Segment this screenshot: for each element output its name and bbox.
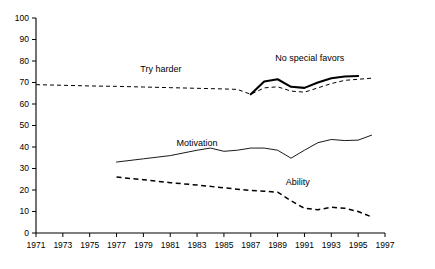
series-label-motivation: Motivation bbox=[177, 138, 218, 148]
x-axis-tick-label: 1979 bbox=[134, 240, 153, 250]
x-axis-tick-label: 1985 bbox=[214, 240, 233, 250]
y-axis-tick-label: 30 bbox=[20, 163, 30, 173]
chart-axes bbox=[36, 18, 385, 233]
y-axis-tick-label: 10 bbox=[20, 206, 30, 216]
y-axis-tick-label: 20 bbox=[20, 185, 30, 195]
x-axis-tick-label: 1987 bbox=[241, 240, 260, 250]
x-axis-tick-label: 1993 bbox=[322, 240, 341, 250]
y-axis-tick-label: 70 bbox=[20, 77, 30, 87]
series-line-motivation bbox=[117, 135, 372, 162]
x-axis-tick-label: 1973 bbox=[53, 240, 72, 250]
series-label-ability: Ability bbox=[286, 177, 311, 187]
y-axis-tick-label: 40 bbox=[20, 142, 30, 152]
x-axis-tick-label: 1997 bbox=[376, 240, 395, 250]
y-axis-tick-label: 60 bbox=[20, 99, 30, 109]
y-axis-tick-label: 80 bbox=[20, 56, 30, 66]
x-axis-tick-label: 1991 bbox=[295, 240, 314, 250]
series-label-try-harder: Try harder bbox=[140, 64, 181, 74]
x-axis-tick-label: 1975 bbox=[80, 240, 99, 250]
series-line-ability bbox=[117, 177, 372, 217]
y-axis-tick-label: 100 bbox=[15, 13, 29, 23]
x-axis-tick-label: 1989 bbox=[268, 240, 287, 250]
x-axis-tick-label: 1983 bbox=[188, 240, 207, 250]
x-axis-tick-label: 1981 bbox=[161, 240, 180, 250]
x-axis-tick-label: 1971 bbox=[27, 240, 46, 250]
y-axis-tick-label: 0 bbox=[24, 228, 29, 238]
x-axis-tick-label: 1995 bbox=[349, 240, 368, 250]
series-label-no-special-favors: No special favors bbox=[275, 53, 345, 63]
chart-container: 0102030405060708090100197119731975197719… bbox=[0, 0, 435, 269]
line-chart: 0102030405060708090100197119731975197719… bbox=[0, 0, 435, 269]
plot-area: 0102030405060708090100197119731975197719… bbox=[15, 13, 395, 251]
y-axis-tick-label: 50 bbox=[20, 120, 30, 130]
y-axis-tick-label: 90 bbox=[20, 34, 30, 44]
x-axis-tick-label: 1977 bbox=[107, 240, 126, 250]
series-line-no-special-favors bbox=[251, 76, 358, 94]
